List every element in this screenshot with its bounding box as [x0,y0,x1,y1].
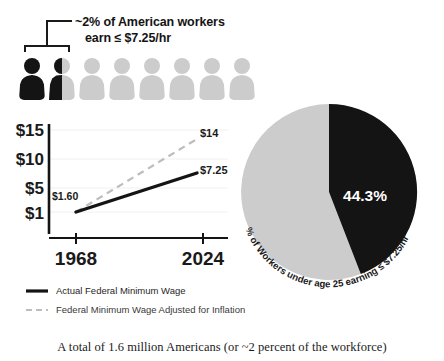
x-tick-label: 2024 [182,248,225,269]
person-body [199,75,225,100]
legend-swatch-solid [26,286,48,296]
person-head [114,58,130,74]
person-icon [169,58,195,100]
y-tick-label: $15 [16,121,44,140]
person-head [144,58,160,74]
person-body-highlight [49,75,62,100]
person-icon [79,58,105,100]
legend-label-actual: Actual Federal Minimum Wage [56,285,186,296]
point-label-end-actual: $7.25 [200,164,228,176]
person-head [84,58,100,74]
headline-line-2: earn ≤ $7.25/hr [75,30,325,46]
person-icon [229,58,255,100]
y-tick-label: $1 [25,204,44,223]
line-chart: $15 $10 $5 $1 1968 2024 $1.60 $14 $7.25 [0,118,232,273]
bracket-stem-horizontal [46,20,72,22]
person-body [79,75,105,100]
x-tick-label: 1968 [55,248,97,269]
person-head [174,58,190,74]
series-line-actual [76,173,197,212]
y-tick-label: $5 [25,179,44,198]
bracket-span [24,45,70,47]
bracket-stem-vertical [46,20,48,46]
person-head [204,58,220,74]
pictogram-people-row [19,58,255,100]
person-head [234,58,250,74]
person-body [139,75,165,100]
legend-label-adjusted: Federal Minimum Wage Adjusted for Inflat… [56,304,245,315]
person-icon [19,58,45,100]
series-line-adjusted [76,139,197,212]
person-body [19,75,45,100]
person-head-highlight [54,58,62,74]
point-label-start-actual: $1.60 [52,190,78,202]
page-title: ~2% of American workers earn ≤ $7.25/hr [75,14,325,46]
person-icon [139,58,165,100]
y-tick-label: $10 [16,150,44,169]
person-body [169,75,195,100]
pie-value-label: 44.3% [343,187,387,204]
person-icon [109,58,135,100]
pie-chart: 44.3% % of Workers under age 25 earning … [232,104,444,296]
headline-callout: ~2% of American workers earn ≤ $7.25/hr [0,6,444,56]
bracket-tick-left [24,45,26,52]
bracket-tick-right [68,45,70,52]
point-label-end-adjusted: $14 [200,127,219,139]
person-icon [199,58,225,100]
footer-caption: A total of 1.6 million Americans (or ~2 … [0,340,444,355]
person-icon-half [49,58,75,100]
person-head [24,58,40,74]
legend-item-adjusted: Federal Minimum Wage Adjusted for Inflat… [26,300,286,319]
legend-swatch-dashed [26,305,48,315]
person-body [229,75,255,100]
person-body [109,75,135,100]
headline-line-1: ~2% of American workers [75,15,225,29]
